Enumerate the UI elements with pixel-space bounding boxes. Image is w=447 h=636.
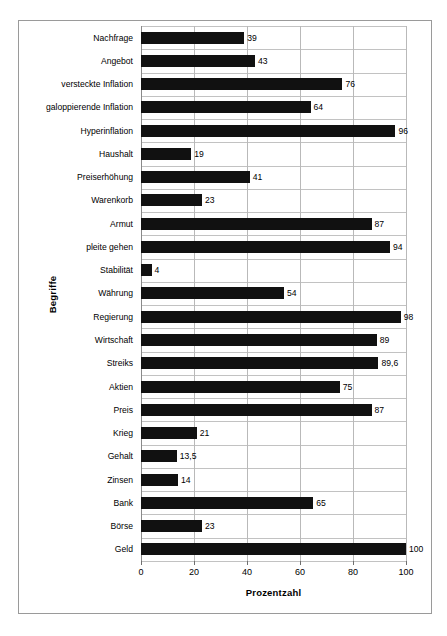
category-label: Hyperinflation [80, 126, 133, 136]
bar [141, 32, 244, 44]
category-label: versteckte Inflation [61, 79, 133, 89]
category-label: Stabilität [100, 265, 133, 275]
bar-value-label: 19 [191, 149, 204, 159]
x-axis-tick [247, 561, 248, 565]
bar [141, 171, 250, 183]
bar-value-label: 87 [372, 219, 385, 229]
category-label: Preis [113, 405, 133, 415]
bar-value-label: 98 [401, 312, 414, 322]
category-label: Haushalt [99, 149, 133, 159]
x-axis-tick-label: 60 [295, 567, 305, 577]
chart-page: Begriffe Prozentzahl Nachfrage39Angebot4… [0, 0, 447, 636]
category-label: Börse [111, 521, 133, 531]
x-axis-tick-label: 20 [189, 567, 199, 577]
x-axis-tick-label: 40 [242, 567, 252, 577]
bar [141, 218, 372, 230]
bar-value-label: 39 [244, 33, 257, 43]
bar-value-label: 87 [372, 405, 385, 415]
chart-row: Angebot43 [141, 49, 406, 72]
bar [141, 450, 177, 462]
y-axis-title: Begriffe [47, 250, 58, 340]
bar-value-label: 89,6 [378, 358, 398, 368]
bar-value-label: 14 [178, 475, 191, 485]
x-axis-tick-label: 80 [348, 567, 358, 577]
bar [141, 101, 311, 113]
x-axis-tick [406, 561, 407, 565]
chart-row: Regierung98 [141, 305, 406, 328]
plot-area: Prozentzahl Nachfrage39Angebot43versteck… [141, 26, 406, 561]
bar [141, 78, 342, 90]
bar [141, 55, 255, 67]
category-label: Aktien [109, 382, 133, 392]
bar [141, 543, 406, 555]
chart-row: Börse23 [141, 514, 406, 537]
chart-row: versteckte Inflation76 [141, 73, 406, 96]
category-label: pleite gehen [86, 242, 133, 252]
bar-value-label: 75 [340, 382, 353, 392]
chart-row: Bank65 [141, 491, 406, 514]
category-label: galoppierende Inflation [46, 102, 133, 112]
bar [141, 357, 378, 369]
x-axis-tick [300, 561, 301, 565]
bar [141, 287, 284, 299]
chart-row: pleite gehen94 [141, 235, 406, 258]
bar [141, 497, 313, 509]
category-label: Gehalt [108, 451, 133, 461]
chart-row: Preiserhöhung41 [141, 166, 406, 189]
chart-row: Streiks89,6 [141, 352, 406, 375]
bar-value-label: 41 [250, 172, 263, 182]
bar-value-label: 54 [284, 288, 297, 298]
grid-line-vertical [406, 26, 407, 561]
chart-row: Stabilität4 [141, 259, 406, 282]
x-axis-tick-label: 0 [138, 567, 143, 577]
bar-value-label: 76 [342, 79, 355, 89]
bar-value-label: 89 [377, 335, 390, 345]
chart-row: Haushalt19 [141, 142, 406, 165]
bar-value-label: 4 [152, 265, 160, 275]
bar [141, 264, 152, 276]
bar-value-label: 43 [255, 56, 268, 66]
chart-row: Krieg21 [141, 421, 406, 444]
category-label: Zinsen [107, 475, 133, 485]
bar [141, 311, 401, 323]
chart-row: Wirtschaft89 [141, 328, 406, 351]
chart-row: Aktien75 [141, 375, 406, 398]
category-label: Nachfrage [93, 33, 133, 43]
chart-row: Warenkorb23 [141, 189, 406, 212]
bar [141, 241, 390, 253]
bar [141, 404, 372, 416]
bar [141, 474, 178, 486]
chart-row: galoppierende Inflation64 [141, 96, 406, 119]
category-label: Bank [113, 498, 133, 508]
x-axis-tick [353, 561, 354, 565]
x-axis-tick [194, 561, 195, 565]
category-label: Preiserhöhung [77, 172, 133, 182]
grid-row-line [141, 561, 406, 562]
category-label: Streiks [107, 358, 133, 368]
bar [141, 334, 377, 346]
bar [141, 125, 395, 137]
category-label: Krieg [113, 428, 133, 438]
bar-value-label: 23 [202, 521, 215, 531]
category-label: Wirtschaft [95, 335, 133, 345]
x-axis-tick [141, 561, 142, 565]
x-axis-title: Prozentzahl [141, 587, 406, 598]
bar [141, 381, 340, 393]
bar-value-label: 23 [202, 195, 215, 205]
chart-row: Preis87 [141, 398, 406, 421]
category-label: Währung [98, 288, 133, 298]
bar [141, 194, 202, 206]
chart-row: Gehalt13,5 [141, 445, 406, 468]
category-label: Armut [110, 219, 133, 229]
bar-value-label: 96 [395, 126, 408, 136]
bar [141, 520, 202, 532]
chart-row: Nachfrage39 [141, 26, 406, 49]
chart-row: Zinsen14 [141, 468, 406, 491]
category-label: Regierung [93, 312, 133, 322]
bar-value-label: 65 [313, 498, 326, 508]
category-label: Geld [115, 544, 133, 554]
chart-row: Hyperinflation96 [141, 119, 406, 142]
bar [141, 427, 197, 439]
bar-value-label: 94 [390, 242, 403, 252]
bar-value-label: 64 [311, 102, 324, 112]
